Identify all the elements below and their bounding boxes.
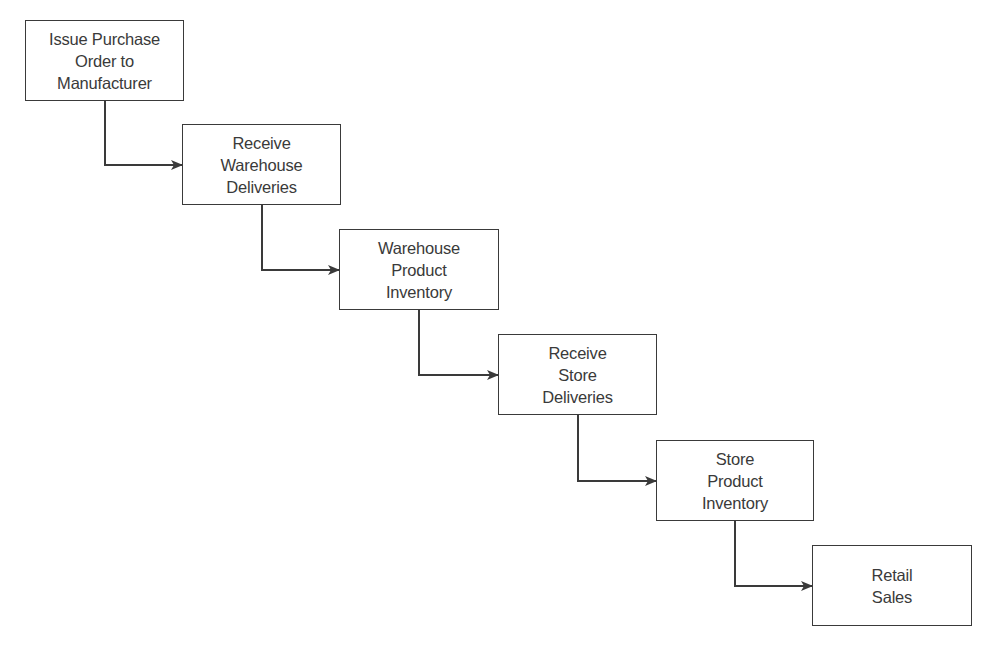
node-label: Receive Warehouse Deliveries [221, 132, 303, 198]
connector-arrow [105, 101, 182, 165]
flowchart-diagram: Issue Purchase Order to Manufacturer Rec… [0, 0, 992, 649]
connector-arrow [578, 415, 656, 481]
node-receive-warehouse-deliveries: Receive Warehouse Deliveries [182, 124, 341, 205]
node-issue-purchase-order: Issue Purchase Order to Manufacturer [25, 20, 184, 101]
node-label: Store Product Inventory [702, 448, 768, 514]
node-store-product-inventory: Store Product Inventory [656, 440, 814, 521]
node-retail-sales: Retail Sales [812, 545, 972, 626]
node-warehouse-product-inventory: Warehouse Product Inventory [339, 229, 499, 310]
node-label: Retail Sales [872, 564, 913, 608]
connector-arrow [262, 205, 339, 270]
connector-arrow [419, 310, 498, 375]
connector-arrow [735, 521, 812, 586]
node-label: Warehouse Product Inventory [378, 237, 460, 303]
node-label: Issue Purchase Order to Manufacturer [49, 28, 160, 94]
node-receive-store-deliveries: Receive Store Deliveries [498, 334, 657, 415]
node-label: Receive Store Deliveries [542, 342, 612, 408]
